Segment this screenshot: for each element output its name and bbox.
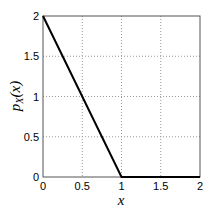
- y-tick-labels: 00.511.52: [24, 10, 39, 183]
- y-axis-label: pX(x): [7, 81, 25, 112]
- svg-text:1.5: 1.5: [153, 180, 168, 192]
- svg-text:2: 2: [33, 10, 39, 22]
- svg-text:0: 0: [40, 180, 46, 192]
- grid: [43, 16, 200, 177]
- chart: 00.511.52 00.511.52 x pX(x): [0, 0, 214, 213]
- svg-text:0.5: 0.5: [75, 180, 90, 192]
- svg-text:1: 1: [118, 180, 124, 192]
- svg-text:0.5: 0.5: [24, 131, 39, 143]
- svg-text:0: 0: [33, 171, 39, 183]
- svg-text:1.5: 1.5: [24, 50, 39, 62]
- x-tick-labels: 00.511.52: [40, 180, 203, 192]
- svg-text:1: 1: [33, 91, 39, 103]
- svg-text:2: 2: [197, 180, 203, 192]
- x-axis-label: x: [117, 192, 125, 208]
